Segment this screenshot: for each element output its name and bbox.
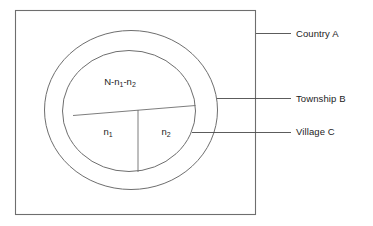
n2-base: n bbox=[161, 126, 166, 137]
remainder-prefix: N-n bbox=[104, 76, 119, 87]
region-label-n2: n2 bbox=[150, 126, 182, 137]
callout-label-village-c: Village C bbox=[296, 126, 335, 137]
n2-sub: 2 bbox=[167, 131, 171, 138]
n1-sub: 1 bbox=[109, 131, 113, 138]
remainder-sub-1: 1 bbox=[120, 81, 124, 88]
region-label-n1: n1 bbox=[92, 126, 124, 137]
n1-base: n bbox=[103, 126, 108, 137]
callout-label-township-b: Township B bbox=[296, 93, 346, 104]
diagram-canvas: Country A Township B Village C N-n1-n2 n… bbox=[0, 0, 373, 226]
remainder-middle: -n bbox=[123, 76, 131, 87]
callout-label-country-a: Country A bbox=[296, 28, 339, 39]
region-label-remainder: N-n1-n2 bbox=[85, 76, 155, 87]
remainder-sub-2: 2 bbox=[132, 81, 136, 88]
